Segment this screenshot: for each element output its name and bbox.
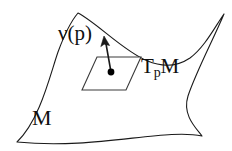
tangent-space-label-t: T (141, 54, 154, 78)
manifold-label: M (32, 107, 52, 129)
base-point-p (108, 69, 115, 76)
normal-vector-label: ν(p) (58, 23, 92, 44)
tangent-space-label-subscript: p (154, 65, 161, 80)
tangent-space-label-m: M (161, 54, 180, 78)
tangent-space-label: TpM (141, 56, 179, 80)
tangent-space-figure: ν(p) TpM M (0, 0, 232, 151)
